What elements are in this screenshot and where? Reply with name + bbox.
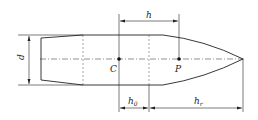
projectile-diagram: d h h0 hr C P (0, 0, 258, 120)
label-C: C (110, 64, 117, 74)
center-of-mass-point (117, 57, 121, 61)
arrow-icon (143, 107, 148, 110)
label-d: d (16, 54, 26, 60)
label-hr: hr (194, 96, 204, 107)
arrow-icon (28, 79, 31, 84)
label-P: P (174, 64, 182, 74)
label-h0: h0 (128, 96, 138, 107)
label-h: h (146, 10, 152, 20)
arrow-icon (173, 20, 178, 23)
body-outline (41, 35, 243, 85)
arrow-icon (120, 20, 125, 23)
arrow-icon (120, 107, 125, 110)
arrow-icon (237, 107, 242, 110)
arrow-icon (150, 107, 155, 110)
arrow-icon (28, 36, 31, 41)
center-of-pressure-point (177, 57, 181, 61)
